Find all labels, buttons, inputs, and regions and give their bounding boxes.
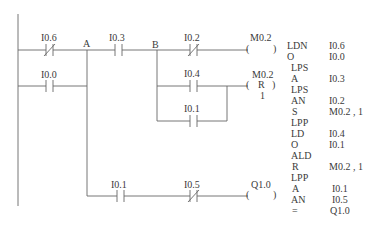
il-op: R: [292, 161, 299, 172]
label-i00: I0.0: [41, 70, 57, 80]
label-node-b: B: [152, 40, 159, 50]
il-operand: I0.1: [332, 183, 348, 194]
il-operand: I0.5: [332, 194, 348, 205]
il-op: LPP: [291, 172, 308, 183]
coil-reset-symbol: R: [258, 80, 265, 90]
il-op: ALD: [291, 150, 312, 161]
il-op: LDN: [287, 40, 308, 51]
il-operand: M0.2 , 1: [329, 106, 363, 117]
il-operand: I0.2: [329, 95, 345, 106]
il-operand: I0.6: [329, 40, 345, 51]
il-operand: I0.4: [329, 128, 345, 139]
coil-m02-close: ): [273, 44, 276, 54]
contact-no-i04: [190, 80, 197, 92]
il-operand: I0.1: [329, 139, 345, 150]
label-i03: I0.3: [109, 33, 125, 43]
contact-no-i00: [46, 80, 53, 92]
coil-reset-close: ): [272, 80, 275, 90]
il-op: O: [287, 51, 294, 62]
il-op: A: [291, 73, 298, 84]
label-i04: I0.4: [184, 69, 200, 79]
il-op: =: [292, 205, 298, 216]
il-op: LPS: [291, 62, 308, 73]
label-node-a: A: [83, 39, 90, 49]
il-operand: M0.2 , 1: [329, 161, 363, 172]
coil-q10-open: (: [246, 190, 249, 200]
il-op: S: [292, 106, 298, 117]
il-operand: I0.0: [329, 51, 345, 62]
label-i06: I0.6: [41, 33, 57, 43]
il-op: LD: [291, 128, 304, 139]
label-i05: I0.5: [184, 180, 200, 190]
il-operand: I0.3: [329, 73, 345, 84]
label-i02: I0.2: [184, 33, 200, 43]
il-op: A: [292, 183, 299, 194]
coil-reset-count: 1: [260, 91, 265, 101]
label-q10: Q1.0: [251, 180, 271, 190]
coil-reset-open: (: [246, 80, 249, 90]
label-i01-parallel: I0.1: [184, 104, 200, 114]
il-op: LPS: [291, 84, 308, 95]
contact-no-i01: [117, 190, 124, 202]
label-i01: I0.1: [111, 180, 127, 190]
contact-no-i01-parallel: [190, 115, 197, 127]
label-m02: M0.2: [250, 33, 271, 43]
coil-q10-close: ): [273, 190, 276, 200]
il-operand: Q1.0: [330, 205, 350, 216]
il-op: LPP: [291, 117, 308, 128]
contact-no-i03: [115, 44, 122, 56]
il-op: O: [291, 139, 298, 150]
il-op: AN: [291, 194, 305, 205]
coil-m02-open: (: [246, 44, 249, 54]
il-op: AN: [291, 95, 305, 106]
